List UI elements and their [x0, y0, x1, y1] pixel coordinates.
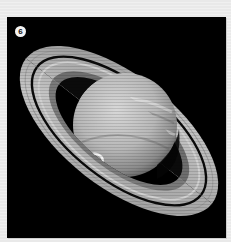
- page-frame: 6: [0, 0, 231, 242]
- saturn-illustration: [7, 17, 226, 238]
- figure-number-badge: 6: [15, 26, 26, 37]
- saturn-photo: 6: [7, 17, 226, 238]
